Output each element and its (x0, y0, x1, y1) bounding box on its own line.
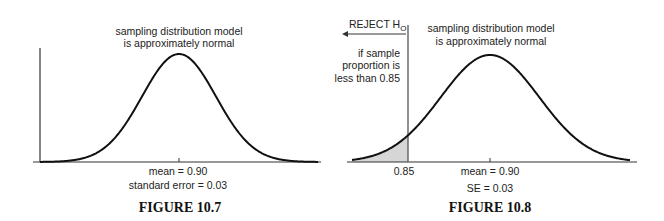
note-line2: proportion is (342, 59, 400, 71)
mean-label: mean = 0.90 (461, 165, 520, 177)
arrow-left-icon (342, 31, 348, 37)
chart-title-line1: sampling distribution model (115, 25, 242, 37)
chart-title-line1: sampling distribution model (427, 22, 554, 34)
figures-canvas: sampling distribution model is approxima… (0, 0, 664, 221)
figure-10-8: REJECT HO if sample proportion is less t… (335, 18, 637, 215)
figure-caption: FIGURE 10.7 (139, 200, 221, 215)
chart-title-line2: is approximately normal (436, 35, 547, 47)
note-line1: if sample (358, 47, 400, 59)
reject-label: REJECT HO (349, 18, 406, 33)
note-line3: less than 0.85 (335, 72, 401, 84)
chart-title-line2: is approximately normal (124, 37, 235, 49)
mean-label: mean = 0.90 (149, 165, 208, 177)
se-label: SE = 0.03 (467, 182, 514, 194)
se-label: standard error = 0.03 (129, 179, 228, 191)
normal-curve (40, 54, 318, 162)
cutoff-label: 0.85 (394, 165, 415, 177)
figure-10-7: sampling distribution model is approxima… (33, 25, 321, 215)
figure-caption: FIGURE 10.8 (449, 200, 531, 215)
